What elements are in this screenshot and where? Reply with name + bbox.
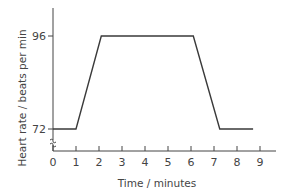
x-tick-label: 0 [50,156,57,169]
x-tick-label: 9 [257,156,264,169]
x-tick-label: 1 [73,156,80,169]
x-tick-label: 8 [234,156,241,169]
x-tick-label: 2 [96,156,103,169]
plot-area [53,36,253,129]
y-tick-label: 72 [32,123,46,136]
x-tick-label: 4 [142,156,149,169]
y-axis-label: Heart rate / beats per min [16,29,28,166]
heart-rate-chart: 01234567897296 Time / minutes Heart rate… [0,0,289,194]
x-axis-label: Time / minutes [117,177,196,189]
x-tick-label: 5 [165,156,172,169]
x-tick-label: 7 [211,156,218,169]
ticks: 01234567897296 [32,30,264,169]
series-line-heart-rate [53,36,253,129]
y-tick-label: 96 [32,30,46,43]
x-tick-label: 3 [119,156,126,169]
x-tick-label: 6 [188,156,195,169]
axis-break-mark [50,139,56,143]
